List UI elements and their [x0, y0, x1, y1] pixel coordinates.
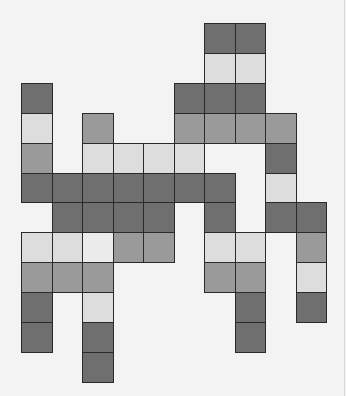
- grid-cell: [21, 292, 53, 323]
- grid-cell: [21, 83, 53, 114]
- grid-cell: [113, 143, 144, 174]
- grid-cell: [82, 143, 114, 174]
- grid-cell: [82, 262, 114, 293]
- grid-cell: [174, 173, 205, 203]
- grid-cell: [21, 113, 53, 144]
- grid-cell: [265, 143, 297, 174]
- grid-cell: [82, 352, 114, 383]
- grid-cell: [204, 53, 236, 84]
- grid-cell: [52, 262, 83, 293]
- grid-cell: [204, 83, 236, 114]
- grid-cell: [235, 53, 266, 84]
- grid-cell: [174, 113, 205, 144]
- grid-cell: [143, 202, 175, 233]
- grid-cell: [143, 143, 175, 174]
- grid-cell: [113, 173, 144, 203]
- grid-cell: [143, 173, 175, 203]
- grid-cell: [113, 232, 144, 263]
- grid-cell: [296, 262, 327, 293]
- grid-cell: [296, 232, 327, 263]
- grid-cell: [204, 262, 236, 293]
- grid-cell: [235, 262, 266, 293]
- grid-cell: [21, 262, 53, 293]
- grid-cell: [235, 83, 266, 114]
- grid-cell: [174, 143, 205, 174]
- grid-cell: [82, 113, 114, 144]
- grid-cell: [204, 232, 236, 263]
- grid-cell: [52, 232, 83, 263]
- block-grid: [0, 0, 346, 396]
- grid-cell: [235, 232, 266, 263]
- grid-cell: [21, 173, 53, 203]
- grid-cell: [82, 292, 114, 323]
- grid-cell: [265, 202, 297, 233]
- grid-cell: [21, 232, 53, 263]
- grid-cell: [204, 173, 236, 203]
- grid-cell: [235, 292, 266, 323]
- grid-cell: [21, 322, 53, 353]
- grid-cell: [265, 113, 297, 144]
- grid-cell: [82, 232, 114, 263]
- grid-cell: [143, 232, 175, 263]
- grid-cell: [204, 202, 236, 233]
- grid-cell: [204, 23, 236, 54]
- grid-cell: [235, 23, 266, 54]
- grid-cell: [82, 173, 114, 203]
- grid-cell: [174, 83, 205, 114]
- grid-cell: [296, 202, 327, 233]
- grid-cell: [82, 202, 114, 233]
- grid-cell: [265, 173, 297, 203]
- grid-cell: [52, 173, 83, 203]
- grid-cell: [204, 113, 236, 144]
- grid-cell: [52, 202, 83, 233]
- grid-cell: [235, 113, 266, 144]
- grid-cell: [21, 143, 53, 174]
- grid-cell: [296, 292, 327, 323]
- right-edge-line: [344, 0, 345, 396]
- grid-cell: [82, 322, 114, 353]
- grid-cell: [235, 322, 266, 353]
- grid-cell: [113, 202, 144, 233]
